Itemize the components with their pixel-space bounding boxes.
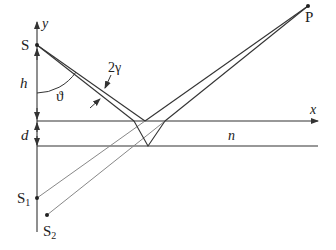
divergence-arrow-top (105, 75, 111, 88)
image-point-s2 (45, 213, 49, 217)
x-axis-label: x (309, 102, 317, 117)
incident-ray-2 (37, 45, 134, 121)
refractive-index-label: n (228, 128, 235, 143)
incident-ray-1 (37, 45, 145, 121)
height-label: h (20, 75, 28, 91)
image1-label: S1 (17, 190, 30, 208)
source-label: S (21, 37, 29, 53)
point-p-label: P (305, 9, 313, 25)
image-point-s1 (35, 196, 39, 200)
source-point (35, 43, 39, 47)
reflected-ray-2 (165, 6, 308, 121)
reflected-ray-1 (145, 6, 308, 121)
divergence-arrow-bottom (90, 99, 100, 108)
virtual-ray-s2 (47, 121, 165, 215)
diagram-canvas: y x S P h d ϑ 2γ n S1 S2 (0, 0, 336, 250)
point-p (306, 4, 310, 8)
divergence-label: 2γ (108, 60, 121, 75)
image2-label: S2 (43, 223, 56, 241)
y-axis-label: y (40, 16, 49, 31)
virtual-ray-s1 (37, 121, 145, 198)
angle-label: ϑ (56, 88, 64, 104)
thickness-label: d (21, 127, 29, 143)
